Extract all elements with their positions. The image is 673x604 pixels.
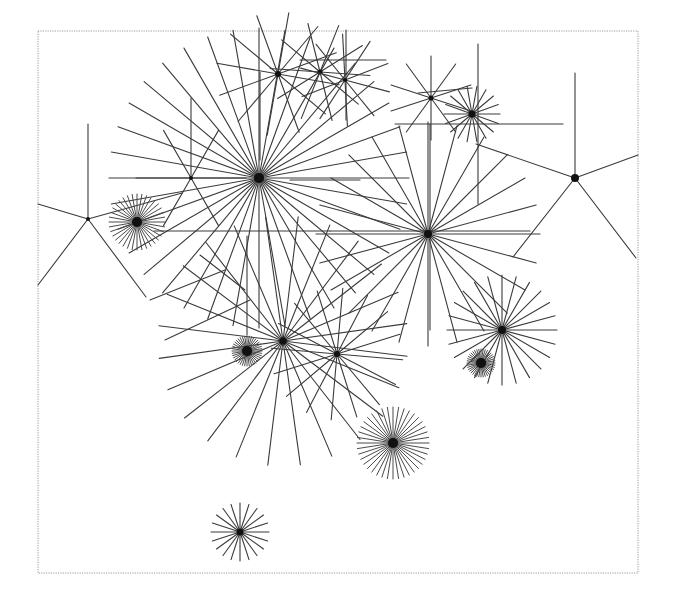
burst-ray [320, 234, 428, 263]
burst-g [232, 336, 262, 366]
burst-hub [469, 111, 476, 118]
burst-ray [391, 85, 431, 98]
burst-ray [217, 515, 241, 532]
burst-ray [274, 354, 337, 374]
burst-ray [364, 443, 393, 464]
connector-line [200, 255, 245, 290]
burst-ray [240, 523, 268, 532]
burst-ray [337, 354, 357, 417]
burst-hub [476, 358, 486, 368]
burst-ray [240, 532, 249, 560]
burst-ray [428, 137, 484, 234]
burst-ray [431, 98, 456, 132]
burst-hub [498, 326, 506, 334]
burst-ray [282, 40, 320, 72]
burst-i [357, 407, 429, 479]
burst-hub [132, 217, 142, 227]
burst-ray [240, 504, 249, 532]
burst-ray [331, 234, 428, 290]
burst-ray [428, 155, 507, 234]
burst-ray [472, 104, 498, 114]
radial-bursts [109, 13, 557, 561]
burst-c [159, 217, 407, 465]
burst-j [211, 503, 269, 561]
burst-ray [345, 64, 388, 81]
burst-ray [502, 330, 516, 383]
fan-ray [38, 219, 88, 285]
burst-ray [267, 74, 278, 135]
burst-ray [231, 504, 240, 532]
burst-ray [364, 422, 393, 443]
burst-hub [242, 346, 252, 356]
burst-ray [428, 126, 457, 234]
fan-ray [575, 155, 638, 178]
burst-ray [399, 234, 428, 342]
burst-ray [372, 443, 393, 472]
burst-hub [189, 176, 193, 180]
burst-diagram [0, 0, 673, 604]
burst-ray [349, 234, 428, 313]
burst-ray [212, 523, 240, 532]
burst-ray [372, 414, 393, 443]
burst-ray [393, 422, 422, 443]
fan-ray [575, 178, 636, 258]
burst-ray [399, 126, 428, 234]
burst-ray [240, 532, 264, 549]
burst-hub [429, 96, 434, 101]
burst-ray [449, 316, 502, 330]
burst-ray [240, 515, 264, 532]
burst-ray [164, 130, 192, 178]
burst-hub [280, 338, 287, 345]
connector-line [150, 270, 225, 300]
burst-h [467, 349, 495, 377]
burst-ray [502, 277, 516, 330]
burst-k [391, 56, 471, 140]
burst-ray [320, 26, 339, 72]
burst-e [447, 275, 557, 385]
burst-ray [393, 443, 414, 472]
burst-ray [240, 509, 257, 533]
burst-hub [334, 351, 340, 357]
fan-right [476, 73, 638, 258]
burst-hub [424, 230, 432, 238]
node-hub [86, 217, 90, 221]
burst-l [444, 86, 500, 141]
burst-hub [237, 529, 244, 536]
burst-ray [502, 330, 555, 344]
burst-ray [502, 316, 555, 330]
fan-left [38, 124, 182, 297]
burst-hub [388, 438, 398, 448]
burst-ray [212, 532, 240, 541]
burst-ray [446, 114, 472, 124]
fan-ray [476, 144, 575, 178]
burst-hub [275, 71, 281, 77]
burst-ray [217, 63, 278, 74]
burst-ray [391, 98, 431, 111]
burst-ray [320, 72, 332, 121]
connector-lines [150, 30, 563, 340]
burst-ray [345, 80, 389, 92]
burst-ray [331, 178, 428, 234]
fan-ray [513, 178, 575, 257]
burst-ray [286, 354, 337, 396]
burst-ray [240, 532, 268, 541]
five-ray-nodes [38, 73, 638, 297]
burst-ray [406, 98, 431, 132]
burst-hub [254, 173, 264, 183]
burst-ray [446, 104, 472, 114]
node-hub [571, 174, 579, 182]
burst-ray [428, 234, 507, 313]
burst-ray [431, 98, 471, 111]
burst-ray [278, 72, 320, 99]
burst-ray [431, 64, 456, 98]
burst-hub [343, 78, 347, 82]
burst-ray [372, 137, 428, 234]
burst-ray [488, 277, 502, 330]
burst-ray [428, 178, 525, 234]
burst-ray [164, 178, 192, 226]
burst-ray [428, 234, 457, 342]
burst-ray [278, 13, 289, 74]
burst-ray [349, 155, 428, 234]
burst-ray [449, 330, 502, 344]
burst-ray [240, 532, 257, 556]
